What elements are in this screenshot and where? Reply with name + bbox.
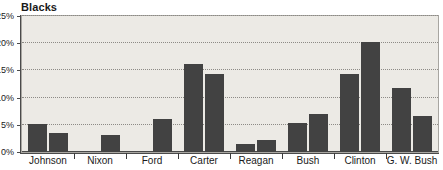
x-axis-separator-tick [282, 153, 283, 159]
bar [392, 88, 411, 152]
bar [309, 114, 328, 152]
x-axis-separator-tick [334, 153, 335, 159]
bar [413, 116, 432, 152]
bar [257, 140, 276, 153]
bar [153, 119, 172, 152]
y-tick-label: 0% [1, 148, 14, 157]
plot-area [21, 15, 439, 153]
bar [28, 124, 47, 152]
chart-container: Blacks 0%5%10%15%20%25% JohnsonNixonFord… [0, 0, 443, 170]
y-tick-mark [17, 98, 21, 99]
bar [236, 144, 255, 152]
x-axis-separator-tick [126, 153, 127, 159]
bar [205, 74, 224, 152]
x-axis-label-clinton: Clinton [344, 155, 375, 167]
bar [49, 133, 68, 152]
y-tick-label: 15% [0, 66, 14, 75]
y-tick-label: 5% [1, 120, 14, 129]
y-tick-mark [17, 125, 21, 126]
chart-title: Blacks [21, 1, 57, 13]
gridline-25 [22, 15, 438, 16]
plot-inner [22, 16, 438, 152]
bar [361, 42, 380, 152]
x-axis-label-ford: Ford [142, 155, 163, 167]
y-tick-mark [17, 43, 21, 44]
x-axis-separator-tick [178, 153, 179, 159]
x-axis-label-g-w-bush: G. W. Bush [387, 155, 438, 167]
x-axis-label-reagan: Reagan [238, 155, 273, 167]
y-tick-mark [17, 70, 21, 71]
y-tick-mark [17, 16, 21, 17]
x-axis-label-nixon: Nixon [87, 155, 113, 167]
x-axis-label-johnson: Johnson [29, 155, 67, 167]
bar [184, 64, 203, 152]
bar [340, 74, 359, 152]
x-axis-label-bush: Bush [297, 155, 320, 167]
y-tick-label: 10% [0, 93, 14, 102]
x-axis-label-carter: Carter [190, 155, 218, 167]
bar [101, 135, 120, 152]
bar [288, 123, 307, 152]
y-tick-label: 20% [0, 39, 14, 48]
y-axis-line [20, 15, 21, 154]
y-tick-label: 25% [0, 12, 14, 21]
x-axis-separator-tick [230, 153, 231, 159]
x-axis-separator-tick [74, 153, 75, 159]
